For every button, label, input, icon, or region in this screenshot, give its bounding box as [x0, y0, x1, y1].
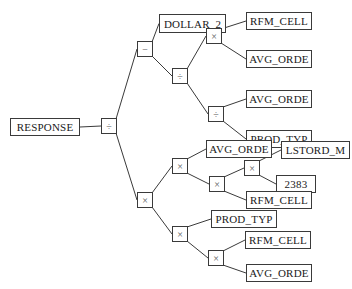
operator-node: ×: [206, 28, 222, 44]
tree-edge: [187, 173, 209, 184]
tree-edge: [187, 241, 208, 258]
tree-edge: [223, 99, 246, 107]
tree-edge: [221, 43, 246, 59]
operator-node: −: [137, 41, 153, 57]
terminal-node: AVG_ORDE: [246, 50, 312, 68]
terminal-node: RFM_CELL: [246, 12, 312, 30]
terminal-node: RFM_CELL: [246, 191, 312, 209]
terminal-node: LSTORD_M: [281, 141, 350, 159]
terminal-node: RFM_CELL: [245, 231, 311, 249]
terminal-node: AVG_ORDE: [206, 140, 272, 158]
tree-edge: [152, 207, 172, 234]
operator-node: ÷: [172, 68, 188, 84]
terminal-node: RESPONSE: [10, 118, 80, 136]
tree-edge: [152, 24, 159, 43]
tree-edge: [259, 175, 276, 184]
tree-edge: [187, 219, 211, 227]
tree-edge: [187, 36, 206, 69]
tree-edge: [80, 126, 101, 127]
operator-node: ÷: [101, 118, 117, 134]
tree-edge: [152, 166, 172, 193]
operator-node: ×: [137, 192, 153, 208]
tree-edge: [187, 149, 206, 159]
operator-node: ×: [172, 158, 188, 174]
terminal-node: AVG_ORDE: [246, 264, 312, 282]
tree-edge: [223, 265, 246, 273]
operator-node: ÷: [208, 106, 224, 122]
operator-node: ×: [172, 226, 188, 242]
operator-node: ×: [208, 250, 224, 266]
tree-edge: [116, 133, 137, 200]
tree-edge: [116, 49, 137, 119]
tree-edge: [152, 56, 172, 76]
operator-node: ×: [244, 160, 260, 176]
tree-edge: [224, 168, 244, 177]
operator-node: ×: [209, 176, 225, 192]
tree-edge: [187, 83, 208, 114]
tree-edge: [223, 121, 246, 139]
terminal-node: AVG_ORDE: [246, 90, 312, 108]
tree-edge: [223, 240, 245, 251]
tree-edge: [224, 191, 246, 200]
terminal-node: PROD_TYP: [211, 210, 277, 228]
